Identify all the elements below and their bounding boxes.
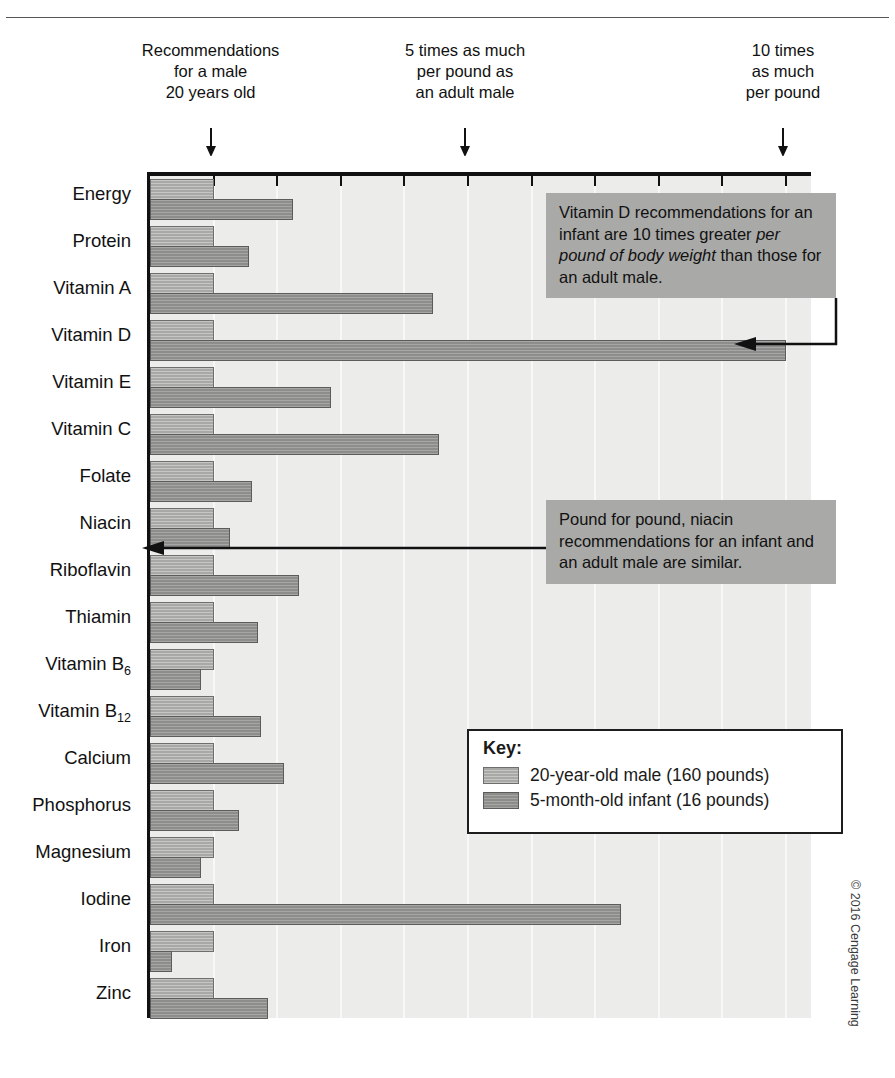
bar-adult-calcium <box>150 743 214 764</box>
axis-header-baseline: Recommendationsfor a male20 years old <box>116 40 306 103</box>
legend-title: Key: <box>483 738 841 759</box>
down-arrow-icon <box>458 128 472 156</box>
vitamin-d-callout: Vitamin D recommendations for an infant … <box>546 193 836 298</box>
copyright-notice: © 2016 Cengage Learning <box>848 880 862 1027</box>
category-label-protein: Protein <box>72 231 131 251</box>
top-divider <box>6 17 889 18</box>
bar-infant-magnesium <box>150 857 201 878</box>
bar-adult-iodine <box>150 884 214 905</box>
axis-header-line: 20 years old <box>116 82 306 103</box>
category-label-vitamin-c: Vitamin C <box>51 419 131 439</box>
bar-adult-magnesium <box>150 837 214 858</box>
chart-plot-area <box>147 172 811 1018</box>
legend-swatch-adult <box>483 767 519 784</box>
bar-adult-vitamin-b6 <box>150 649 214 670</box>
axis-header-line: 5 times as much <box>370 40 560 61</box>
category-label-zinc: Zinc <box>96 983 131 1003</box>
bar-row <box>150 928 811 975</box>
bar-row <box>150 834 811 881</box>
vitamin-d-leader-line <box>720 296 840 366</box>
bar-infant-vitamin-e <box>150 387 331 408</box>
bar-infant-protein <box>150 246 249 267</box>
category-label-iron: Iron <box>99 936 131 956</box>
bar-infant-vitamin-b12 <box>150 716 261 737</box>
bar-row <box>150 458 811 505</box>
category-label-vitamin-b12: Vitamin B12 <box>38 701 131 728</box>
bar-adult-iron <box>150 931 214 952</box>
bar-infant-phosphorus <box>150 810 239 831</box>
down-arrow-icon <box>776 128 790 156</box>
category-label-vitamin-b6: Vitamin B6 <box>45 654 131 681</box>
category-label-vitamin-d: Vitamin D <box>51 325 131 345</box>
bar-row <box>150 881 811 928</box>
bar-adult-vitamin-c <box>150 414 214 435</box>
bar-adult-vitamin-e <box>150 367 214 388</box>
callout-text-segment: Pound for pound, niacin recommendations … <box>559 510 814 571</box>
legend-entry-infant: 5-month-old infant (16 pounds) <box>483 790 841 811</box>
category-label-calcium: Calcium <box>64 748 131 768</box>
legend-swatch-infant <box>483 792 519 809</box>
category-label-magnesium: Magnesium <box>35 842 131 862</box>
axis-header-line: per pound <box>688 82 878 103</box>
bar-infant-calcium <box>150 763 284 784</box>
category-label-folate: Folate <box>80 466 131 486</box>
bar-row <box>150 364 811 411</box>
axis-header-line: 10 times <box>688 40 878 61</box>
clipped-top-caption <box>0 0 895 3</box>
bar-infant-vitamin-b6 <box>150 669 201 690</box>
axis-header-line: as much <box>688 61 878 82</box>
axis-header-line: Recommendations <box>116 40 306 61</box>
bar-adult-folate <box>150 461 214 482</box>
bar-row <box>150 975 811 1022</box>
bar-adult-niacin <box>150 508 214 529</box>
category-axis-labels: EnergyProteinVitamin AVitamin DVitamin E… <box>0 172 139 1018</box>
chart-legend: Key: 20-year-old male (160 pounds) 5-mon… <box>467 729 843 834</box>
bar-adult-vitamin-d <box>150 320 214 341</box>
legend-entry-adult: 20-year-old male (160 pounds) <box>483 765 841 786</box>
legend-label-infant: 5-month-old infant (16 pounds) <box>530 790 769 811</box>
bar-infant-zinc <box>150 998 268 1019</box>
axis-header-line: for a male <box>116 61 306 82</box>
bar-infant-energy <box>150 199 293 220</box>
axis-header-line: per pound as <box>370 61 560 82</box>
category-label-vitamin-e: Vitamin E <box>52 372 131 392</box>
bar-row <box>150 317 811 364</box>
bar-infant-vitamin-c <box>150 434 439 455</box>
axis-header-ten-times: 10 timesas muchper pound <box>688 40 878 103</box>
bar-adult-energy <box>150 179 214 200</box>
niacin-leader-line <box>128 535 548 561</box>
bar-infant-riboflavin <box>150 575 299 596</box>
category-label-vitamin-a: Vitamin A <box>53 278 131 298</box>
bar-adult-protein <box>150 226 214 247</box>
bar-row <box>150 411 811 458</box>
axis-header-five-times: 5 times as muchper pound asan adult male <box>370 40 560 103</box>
bar-row <box>150 646 811 693</box>
category-label-iodine: Iodine <box>81 889 131 909</box>
bar-infant-iron <box>150 951 172 972</box>
legend-label-adult: 20-year-old male (160 pounds) <box>530 765 769 786</box>
category-label-phosphorus: Phosphorus <box>32 795 131 815</box>
bar-infant-thiamin <box>150 622 258 643</box>
bar-row <box>150 599 811 646</box>
category-label-niacin: Niacin <box>80 513 131 533</box>
category-label-energy: Energy <box>72 184 131 204</box>
bar-adult-vitamin-a <box>150 273 214 294</box>
category-label-thiamin: Thiamin <box>65 607 131 627</box>
bar-infant-folate <box>150 481 252 502</box>
category-label-riboflavin: Riboflavin <box>50 560 131 580</box>
axis-header-line: an adult male <box>370 82 560 103</box>
down-arrow-icon <box>204 128 218 156</box>
bar-adult-phosphorus <box>150 790 214 811</box>
bar-adult-thiamin <box>150 602 214 623</box>
niacin-callout: Pound for pound, niacin recommendations … <box>546 500 836 584</box>
bar-infant-iodine <box>150 904 621 925</box>
bar-adult-vitamin-b12 <box>150 696 214 717</box>
bar-infant-vitamin-d <box>150 340 786 361</box>
bar-adult-zinc <box>150 978 214 999</box>
bar-infant-vitamin-a <box>150 293 433 314</box>
